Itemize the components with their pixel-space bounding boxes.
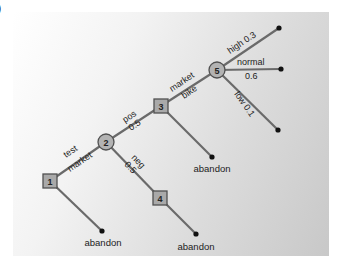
edge-label-low: low 0.1: [232, 89, 257, 118]
node-5: 5: [209, 62, 225, 78]
node-3-label: 3: [158, 102, 163, 112]
terminal-dot-abandon-4: [193, 231, 198, 236]
terminal-dot-high: [276, 25, 281, 30]
edge-label-normal-prob: 0.6: [245, 71, 258, 81]
edge-normal: [217, 69, 280, 70]
terminal-label-abandon-4: abandon: [178, 241, 215, 252]
terminal-dot-low: [275, 127, 280, 132]
edge-abandon-1: [50, 181, 102, 231]
edge-label-high: high 0.3: [226, 29, 258, 55]
node-1: 1: [43, 174, 57, 188]
node-4-label: 4: [157, 194, 162, 204]
node-3: 3: [154, 99, 168, 113]
edge-abandon-3: [161, 106, 212, 157]
node-2-label: 2: [103, 138, 108, 148]
decision-tree: 1 2 3 4 5 test market pos 0.5 neg 0.5 ma…: [0, 0, 342, 266]
edge-label-normal: normal: [237, 57, 265, 67]
node-4: 4: [153, 191, 167, 205]
terminal-label-abandon-3: abandon: [194, 163, 231, 174]
node-5-label: 5: [214, 66, 219, 76]
terminal-dot-abandon-3: [209, 154, 214, 159]
terminal-dot-abandon-1: [99, 228, 104, 233]
terminal-dot-normal: [278, 66, 283, 71]
node-2: 2: [98, 134, 114, 150]
node-1-label: 1: [47, 177, 52, 187]
terminal-label-abandon-1: abandon: [85, 237, 122, 248]
